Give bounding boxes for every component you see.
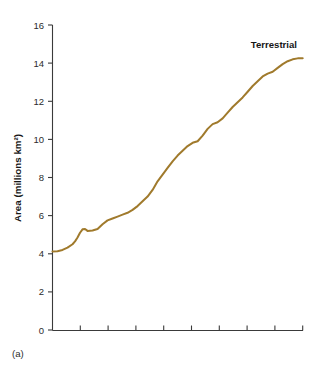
y-tick-label-0: 0 (39, 325, 44, 336)
terrestrial-series-line (53, 58, 303, 251)
chart-svg: Area (millions km²) 16 14 12 10 8 6 4 2 … (0, 0, 314, 370)
y-axis-tick-labels: 16 14 12 10 8 6 4 2 0 (33, 20, 44, 336)
x-axis-ticks (80, 326, 302, 331)
y-tick-label-16: 16 (33, 20, 44, 31)
y-axis-title: Area (millions km²) (12, 134, 23, 222)
y-tick-label-8: 8 (39, 172, 44, 183)
panel-label: (a) (12, 348, 24, 359)
series-annotation-terrestrial: Terrestrial (251, 39, 297, 50)
chart-figure: Area (millions km²) 16 14 12 10 8 6 4 2 … (0, 0, 314, 370)
y-axis-ticks (48, 25, 53, 330)
y-tick-label-6: 6 (39, 210, 44, 221)
y-tick-label-12: 12 (33, 96, 44, 107)
y-tick-label-14: 14 (33, 58, 44, 69)
y-tick-label-4: 4 (39, 248, 44, 259)
y-tick-label-2: 2 (39, 286, 44, 297)
y-tick-label-10: 10 (33, 134, 44, 145)
